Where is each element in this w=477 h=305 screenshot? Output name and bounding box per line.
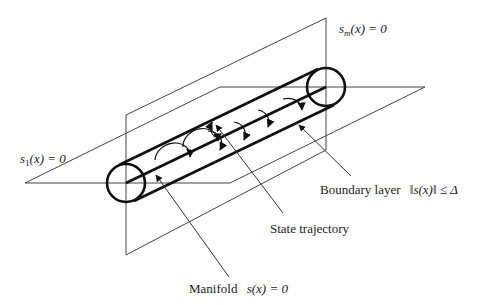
s1-equation: (x) = 0: [30, 151, 66, 166]
boundary-layer-leader: [299, 125, 351, 176]
diagram-svg: [0, 0, 477, 305]
boundary-layer-text: Boundary layer: [320, 182, 401, 197]
label-boundary-layer: Boundary layer ‖s(x)‖ ≤ Δ: [320, 183, 458, 196]
label-s1-plane: s1(x) = 0: [20, 152, 66, 168]
state-trajectory-leader: [216, 125, 283, 213]
label-sm-plane: sm(x) = 0: [339, 22, 387, 38]
manifold-equation: s(x) = 0: [247, 281, 288, 296]
manifold-axis: [126, 87, 326, 183]
manifold-text: Manifold: [189, 281, 237, 296]
boundary-layer-inequality: ‖s(x)‖ ≤ Δ: [410, 182, 458, 197]
plane-sm: [126, 18, 326, 255]
manifold-leader: [156, 175, 229, 277]
label-state-trajectory: State trajectory: [270, 222, 349, 235]
state-trajectory-text: State trajectory: [270, 221, 349, 236]
sm-equation: (x) = 0: [351, 21, 387, 36]
leader-lines: [156, 125, 351, 277]
diagram-canvas: sm(x) = 0 s1(x) = 0 Boundary layer ‖s(x)…: [0, 0, 477, 305]
label-manifold: Manifold s(x) = 0: [189, 282, 288, 295]
